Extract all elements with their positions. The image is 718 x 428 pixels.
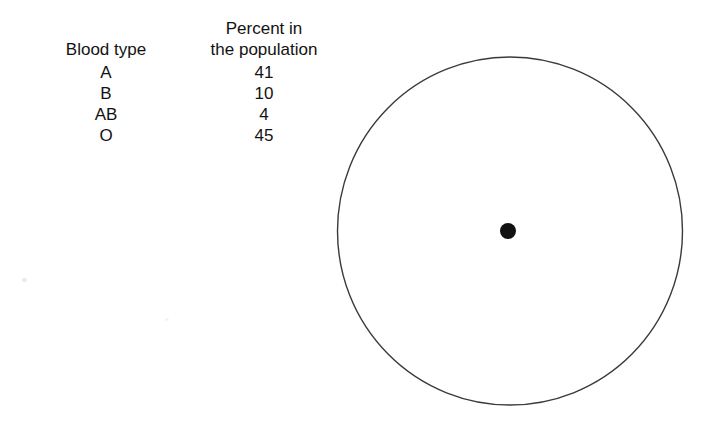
table-row: 4 bbox=[174, 104, 354, 125]
worksheet-page: Blood type Percent in the population A 4… bbox=[0, 0, 718, 428]
pie-chart bbox=[336, 56, 684, 406]
pie-center-dot-icon bbox=[500, 223, 516, 239]
table-row: AB bbox=[24, 104, 174, 125]
scan-speck bbox=[22, 278, 27, 282]
table-row: 41 bbox=[174, 62, 354, 83]
table-row: A bbox=[24, 62, 174, 83]
pie-circle-icon bbox=[336, 56, 684, 406]
column-header-percent: Percent in the population bbox=[174, 18, 354, 62]
table-grid: Blood type Percent in the population A 4… bbox=[24, 18, 354, 146]
blood-type-table: Blood type Percent in the population A 4… bbox=[24, 18, 354, 146]
column-header-blood-type: Blood type bbox=[24, 39, 174, 62]
table-row: 10 bbox=[174, 83, 354, 104]
table-row: O bbox=[24, 125, 174, 146]
scan-speck bbox=[165, 318, 169, 321]
table-row: 45 bbox=[174, 125, 354, 146]
table-row: B bbox=[24, 83, 174, 104]
